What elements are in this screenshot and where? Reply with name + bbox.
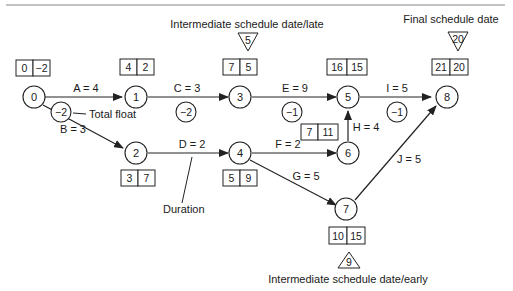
- svg-text:J = 5: J = 5: [397, 153, 421, 165]
- svg-text:3: 3: [237, 91, 243, 103]
- svg-text:−2: −2: [36, 62, 48, 74]
- svg-text:1: 1: [133, 91, 139, 103]
- svg-text:7: 7: [144, 172, 150, 184]
- svg-text:0: 0: [22, 62, 28, 74]
- svg-text:9: 9: [246, 172, 252, 184]
- svg-text:21: 21: [435, 61, 447, 73]
- box-node-1: 4 2: [120, 59, 154, 75]
- box-node-2: 3 7: [121, 170, 155, 186]
- svg-text:2: 2: [133, 147, 139, 159]
- box-node-4: 5 9: [223, 170, 257, 186]
- float-e: −1: [282, 102, 302, 122]
- svg-text:0: 0: [31, 91, 37, 103]
- svg-text:5: 5: [245, 34, 251, 46]
- svg-text:5: 5: [246, 61, 252, 73]
- duration-leader: [182, 157, 192, 203]
- box-node-8: 21 20: [432, 59, 468, 75]
- svg-text:I = 5: I = 5: [386, 82, 408, 94]
- intermediate-early-label: Intermediate schedule date/early: [268, 273, 428, 285]
- box-node-3: 7 5: [223, 59, 257, 75]
- node-1: 1: [125, 86, 147, 108]
- svg-text:20: 20: [453, 61, 465, 73]
- node-4: 4: [229, 142, 251, 164]
- svg-text:15: 15: [351, 61, 363, 73]
- svg-text:B = 3: B = 3: [60, 123, 86, 135]
- svg-text:−1: −1: [391, 106, 403, 118]
- svg-text:8: 8: [444, 91, 450, 103]
- svg-text:H = 4: H = 4: [353, 121, 380, 133]
- svg-text:16: 16: [331, 61, 343, 73]
- svg-text:7: 7: [307, 126, 313, 138]
- svg-text:3: 3: [127, 172, 133, 184]
- arrow-g: [250, 160, 336, 205]
- svg-text:20: 20: [452, 33, 464, 45]
- float-i: −1: [387, 102, 407, 122]
- node-7: 7: [335, 198, 357, 220]
- box-node-7: 10 15: [329, 227, 365, 244]
- float-c: −2: [176, 102, 196, 122]
- node-8: 8: [436, 86, 458, 108]
- total-float-leader: [73, 113, 86, 114]
- box-node-5: 16 15: [327, 59, 367, 75]
- svg-text:D = 2: D = 2: [179, 138, 206, 150]
- final-schedule-triangle: 20: [448, 32, 468, 51]
- svg-text:A = 4: A = 4: [73, 82, 98, 94]
- svg-text:−2: −2: [180, 106, 192, 118]
- final-schedule-label: Final schedule date: [403, 13, 498, 25]
- network-diagram: 0 1 2 3 4 5 6 7 8 0 −2 4 2: [0, 0, 513, 291]
- svg-text:5: 5: [345, 91, 351, 103]
- intermediate-early-triangle: 9: [338, 252, 360, 268]
- node-3: 3: [229, 86, 251, 108]
- intermediate-late-triangle: 5: [238, 33, 258, 51]
- svg-text:4: 4: [237, 147, 243, 159]
- box-node-0: 0 −2: [16, 60, 50, 76]
- svg-text:F = 2: F = 2: [275, 138, 300, 150]
- svg-text:4: 4: [126, 61, 132, 73]
- svg-text:10: 10: [332, 230, 344, 242]
- node-6: 6: [337, 142, 359, 164]
- svg-text:5: 5: [229, 172, 235, 184]
- svg-text:11: 11: [323, 126, 334, 138]
- svg-text:−1: −1: [286, 106, 298, 118]
- svg-text:E = 9: E = 9: [282, 82, 308, 94]
- svg-text:2: 2: [143, 61, 149, 73]
- svg-text:C = 3: C = 3: [174, 82, 201, 94]
- svg-text:−2: −2: [55, 106, 67, 118]
- svg-text:7: 7: [343, 203, 349, 215]
- svg-text:9: 9: [346, 256, 352, 268]
- total-float-label: Total float: [89, 108, 136, 120]
- intermediate-late-label: Intermediate schedule date/late: [170, 18, 324, 30]
- duration-label: Duration: [163, 203, 205, 215]
- node-0: 0: [23, 86, 45, 108]
- node-2: 2: [125, 142, 147, 164]
- box-node-6: 7 11: [301, 124, 338, 140]
- svg-text:15: 15: [350, 230, 362, 242]
- svg-text:7: 7: [229, 61, 235, 73]
- float-a: −2: [51, 102, 71, 122]
- svg-text:6: 6: [345, 147, 351, 159]
- node-5: 5: [337, 86, 359, 108]
- svg-text:G = 5: G = 5: [292, 170, 319, 182]
